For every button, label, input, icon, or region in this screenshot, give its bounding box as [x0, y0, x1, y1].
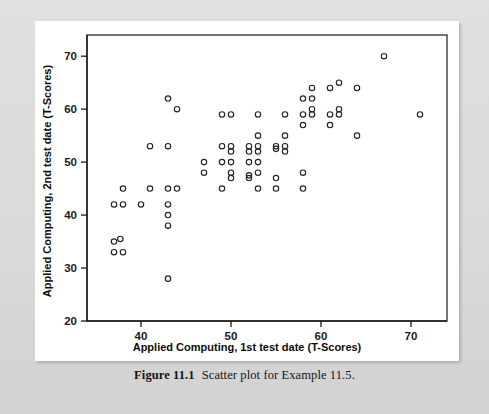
- scatter-point: [381, 53, 386, 58]
- scatter-point: [219, 186, 224, 191]
- scatter-point: [255, 159, 260, 164]
- scatter-point: [309, 96, 314, 101]
- scatter-point: [111, 239, 116, 244]
- scatter-point: [165, 144, 170, 149]
- scatter-point: [300, 96, 305, 101]
- scatter-point: [300, 112, 305, 117]
- scatter-point: [228, 149, 233, 154]
- scatter-point: [174, 106, 179, 111]
- figure-caption-text: Scatter plot for Example 11.5.: [202, 368, 355, 382]
- scatter-point: [417, 112, 422, 117]
- scatter-point: [118, 236, 123, 241]
- scatter-point: [336, 112, 341, 117]
- scatter-point: [165, 186, 170, 191]
- scatter-point: [255, 112, 260, 117]
- scatter-point: [147, 144, 152, 149]
- scatter-point: [255, 170, 260, 175]
- scatter-point: [354, 133, 359, 138]
- x-axis-title: Applied Computing, 1st test date (T-Scor…: [133, 341, 362, 353]
- scatter-point: [300, 122, 305, 127]
- scatter-point: [282, 144, 287, 149]
- scatter-point: [165, 212, 170, 217]
- scatter-point: [354, 85, 359, 90]
- scatter-point: [327, 122, 332, 127]
- scatter-point: [282, 149, 287, 154]
- scatter-point: [282, 112, 287, 117]
- scatter-point: [336, 80, 341, 85]
- scatter-point: [255, 186, 260, 191]
- scatter-point: [282, 133, 287, 138]
- scatter-point: [228, 175, 233, 180]
- scatter-point: [111, 202, 116, 207]
- scatter-point: [327, 85, 332, 90]
- scatter-point: [228, 170, 233, 175]
- scatter-point: [201, 159, 206, 164]
- scatter-point: [111, 249, 116, 254]
- scatter-point: [336, 106, 341, 111]
- y-tick-label: 40: [64, 209, 77, 221]
- scatter-point: [165, 202, 170, 207]
- scatter-point: [147, 186, 152, 191]
- y-tick-label: 70: [64, 50, 77, 62]
- scatter-point: [138, 202, 143, 207]
- scatter-point: [228, 144, 233, 149]
- scatter-point: [120, 186, 125, 191]
- y-tick-label: 30: [64, 262, 77, 274]
- scatter-point: [120, 249, 125, 254]
- scatter-point: [255, 133, 260, 138]
- scatter-point: [309, 106, 314, 111]
- plot-frame: [87, 35, 447, 321]
- scatter-point: [174, 186, 179, 191]
- scatter-point: [246, 149, 251, 154]
- scatter-point: [246, 144, 251, 149]
- scatter-plot-svg: 20304050607040506070 Applied Computing, …: [35, 21, 459, 361]
- figure-card: 20304050607040506070 Applied Computing, …: [35, 21, 459, 361]
- scatter-point: [228, 159, 233, 164]
- axis-tick-labels: 20304050607040506070: [64, 50, 417, 342]
- scatter-point: [327, 112, 332, 117]
- figure-caption: Figure 11.1Scatter plot for Example 11.5…: [0, 368, 489, 383]
- scatter-point: [309, 112, 314, 117]
- scatter-point: [165, 96, 170, 101]
- scatter-point: [219, 112, 224, 117]
- axis-ticks: [81, 56, 411, 327]
- scatter-point: [120, 202, 125, 207]
- scatter-point: [165, 223, 170, 228]
- y-axis-title: Applied Computing, 2nd test date (T-Scor…: [41, 65, 53, 298]
- scatter-point: [273, 186, 278, 191]
- scatter-point: [273, 175, 278, 180]
- y-tick-label: 60: [64, 103, 77, 115]
- scatter-point: [255, 149, 260, 154]
- page-background: 20304050607040506070 Applied Computing, …: [0, 0, 489, 414]
- scatter-point: [165, 276, 170, 281]
- y-tick-label: 50: [64, 156, 77, 168]
- scatter-point: [228, 112, 233, 117]
- x-tick-label: 70: [405, 330, 418, 342]
- scatter-point: [300, 186, 305, 191]
- scatter-point: [246, 159, 251, 164]
- scatter-point: [201, 170, 206, 175]
- scatter-point: [219, 144, 224, 149]
- data-points: [111, 53, 422, 281]
- scatter-point: [309, 85, 314, 90]
- scatter-point: [255, 144, 260, 149]
- figure-caption-label: Figure 11.1: [134, 368, 195, 382]
- y-tick-label: 20: [64, 315, 77, 327]
- scatter-point: [219, 159, 224, 164]
- scatter-point: [300, 170, 305, 175]
- scatter-plot: 20304050607040506070 Applied Computing, …: [35, 21, 459, 361]
